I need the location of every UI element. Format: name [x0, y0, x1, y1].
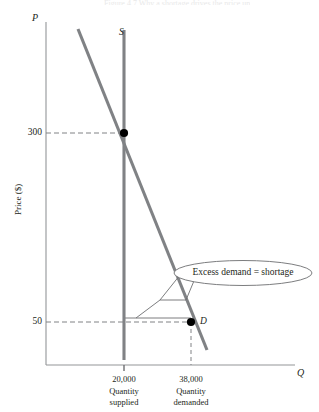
- supply-curve-label: S: [119, 28, 124, 38]
- demand-curve: [78, 29, 207, 350]
- demand-point-marker: [187, 318, 195, 326]
- x-tick-label-38000: 38,000: [161, 374, 221, 385]
- y-axis-caption: P: [32, 13, 38, 23]
- economics-figure: Figure 4.7 Why a shortage drives the pri…: [0, 0, 319, 412]
- x-tick-label-20000: 20,000: [94, 374, 154, 385]
- chart-canvas: [0, 0, 319, 412]
- x-tick-caption-supplied-line1: Quantity: [94, 386, 154, 397]
- y-tick-label-50: 50: [14, 317, 42, 327]
- y-axis-title: Price ($): [13, 184, 23, 215]
- equilibrium-point-marker: [120, 129, 128, 137]
- demand-curve-label: D: [200, 317, 207, 327]
- excess-demand-callout-label: Excess demand = shortage: [174, 267, 312, 277]
- x-tick-caption-supplied-line2: supplied: [94, 397, 154, 408]
- y-tick-label-300: 300: [14, 128, 42, 138]
- x-axis-caption: Q: [297, 368, 304, 378]
- x-tick-caption-demanded-line2: demanded: [161, 397, 221, 408]
- x-tick-caption-demanded-line1: Quantity: [161, 386, 221, 397]
